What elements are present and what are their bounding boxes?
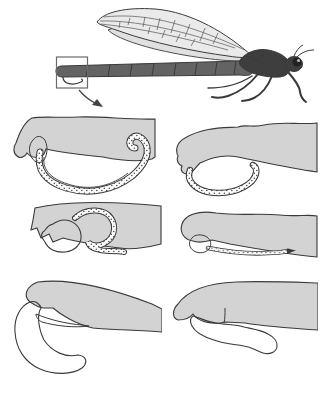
legs: [208, 72, 306, 102]
abdomen-tip-cercus: [63, 77, 83, 84]
abdomen: [56, 61, 252, 84]
abdomen-segment: [177, 123, 317, 174]
eye-highlight: [297, 59, 300, 62]
damselfly-overview-illustration: [0, 0, 322, 112]
leader-arrow: [79, 90, 103, 107]
abdomen-segment: [26, 281, 162, 332]
antennae: [294, 45, 314, 57]
eye: [293, 58, 302, 67]
clasper-detail-2: [168, 112, 318, 200]
cercus-oval-loop: [189, 165, 256, 193]
clasper-detail-6: [168, 278, 318, 365]
clasper-detail-3: [25, 198, 163, 276]
figure-panel: [0, 0, 322, 394]
clasper-detail-1: [8, 112, 162, 202]
clasper-detail-4: [168, 200, 318, 268]
abdomen-segment: [174, 282, 319, 330]
clasper-detail-5: [10, 278, 162, 374]
